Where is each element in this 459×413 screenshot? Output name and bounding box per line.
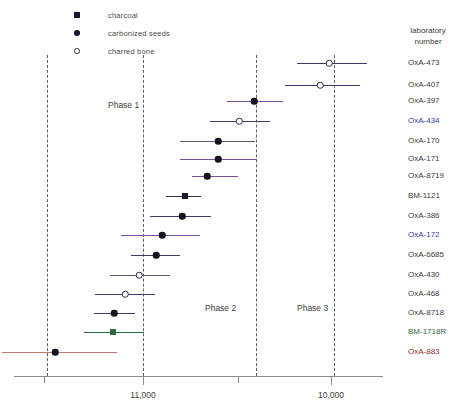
filled-circle-icon [70, 30, 84, 36]
data-row[interactable] [0, 346, 390, 358]
data-row[interactable] [0, 210, 390, 222]
open-circle-icon [326, 60, 333, 67]
open-circle-icon [122, 291, 129, 298]
x-axis-tick-label: 10,000 [318, 390, 344, 400]
laboratory-number-label: OxA-170 [408, 136, 440, 145]
data-row[interactable] [0, 190, 390, 202]
laboratory-number-label: OxA-386 [408, 211, 440, 220]
data-row[interactable] [0, 269, 390, 281]
data-row[interactable] [0, 249, 390, 261]
error-bar [192, 176, 238, 177]
laboratory-number-label: OxA-434 [408, 116, 440, 125]
laboratory-number-label: BM-1121 [408, 191, 440, 200]
data-row[interactable] [0, 307, 390, 319]
radiocarbon-date-chart: charcoalcarbonized seedscharred bone Pha… [0, 0, 459, 413]
x-axis-tick [238, 376, 239, 383]
laboratory-number-label: OxA-8718 [408, 308, 444, 317]
open-circle-icon [236, 118, 243, 125]
filled-square-icon [110, 329, 116, 335]
legend-item-label: carbonized seeds [108, 29, 170, 38]
filled-square-icon [70, 12, 84, 18]
filled-circle-icon [111, 310, 118, 317]
data-row[interactable] [0, 326, 390, 338]
laboratory-number-label: OxA-473 [408, 58, 440, 67]
data-row[interactable] [0, 115, 390, 127]
filled-square-icon [182, 193, 188, 199]
legend-item-label: charred bone [108, 47, 155, 56]
x-axis-tick [44, 376, 45, 383]
open-circle-icon [70, 48, 84, 54]
data-row[interactable] [0, 79, 390, 91]
laboratory-number-label: OxA-397 [408, 96, 440, 105]
filled-circle-icon [251, 98, 258, 105]
filled-circle-icon [215, 138, 222, 145]
filled-circle-icon [215, 156, 222, 163]
data-row[interactable] [0, 288, 390, 300]
x-axis-tick-label: 11,000 [130, 390, 155, 400]
laboratory-number-label: OxA-407 [408, 80, 440, 89]
laboratory-number-label: OxA-430 [408, 270, 440, 279]
data-row[interactable] [0, 57, 390, 69]
legend-item-charcoal: charcoal [70, 8, 138, 22]
laboratory-number-label: OxA-8719 [408, 171, 444, 180]
data-row[interactable] [0, 153, 390, 165]
filled-circle-icon [159, 232, 166, 239]
laboratory-number-label: BM-1718R [408, 327, 446, 336]
column-header-line1: laboratory [398, 26, 458, 35]
legend-item-charred-bone: charred bone [70, 44, 155, 58]
laboratory-number-label: OxA-6685 [408, 250, 444, 259]
x-axis-tick [143, 376, 144, 385]
data-row[interactable] [0, 170, 390, 182]
laboratory-number-label: OxA-468 [408, 289, 440, 298]
legend-item-carbonized-seeds: carbonized seeds [70, 26, 170, 40]
open-circle-icon [317, 82, 324, 89]
laboratory-number-label: OxA-172 [408, 230, 440, 239]
data-row[interactable] [0, 229, 390, 241]
laboratory-number-label: OxA-171 [408, 154, 440, 163]
filled-circle-icon [153, 252, 160, 259]
open-circle-icon [136, 272, 143, 279]
data-row[interactable] [0, 95, 390, 107]
x-axis-line [14, 376, 383, 377]
chart-legend: charcoalcarbonized seedscharred bone [0, 0, 230, 60]
column-header-line2: number [398, 37, 458, 46]
legend-item-label: charcoal [108, 11, 138, 20]
filled-circle-icon [52, 349, 59, 356]
error-bar [2, 352, 117, 353]
data-row[interactable] [0, 135, 390, 147]
laboratory-number-label: OxA-883 [408, 347, 440, 356]
filled-circle-icon [179, 213, 186, 220]
x-axis-tick [331, 376, 332, 385]
filled-circle-icon [204, 173, 211, 180]
